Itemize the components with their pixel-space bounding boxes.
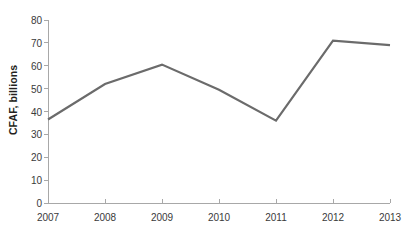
- series-line: [48, 41, 390, 121]
- plot-area: [0, 0, 407, 235]
- line-chart: CFAF, billions 01020304050607080 2007200…: [0, 0, 407, 235]
- data-series: [48, 41, 390, 121]
- axes: [44, 20, 390, 203]
